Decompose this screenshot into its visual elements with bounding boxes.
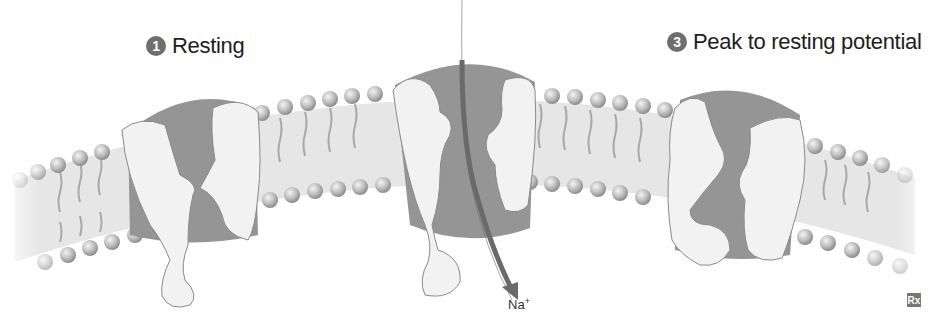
state-1-label: 1 Resting bbox=[146, 33, 245, 59]
state-label-text: Resting bbox=[172, 33, 245, 59]
channel-inactivated bbox=[668, 90, 805, 265]
channel-resting bbox=[122, 99, 260, 307]
step-number-badge: 3 bbox=[667, 32, 687, 52]
state-3-label: 3 Peak to resting potential bbox=[667, 29, 922, 55]
rx-logo-icon: Rx bbox=[907, 293, 921, 307]
sodium-ion-label: Na+ bbox=[508, 296, 530, 312]
state-label-text: Peak to resting potential bbox=[693, 29, 922, 55]
step-number-badge: 1 bbox=[146, 36, 166, 56]
